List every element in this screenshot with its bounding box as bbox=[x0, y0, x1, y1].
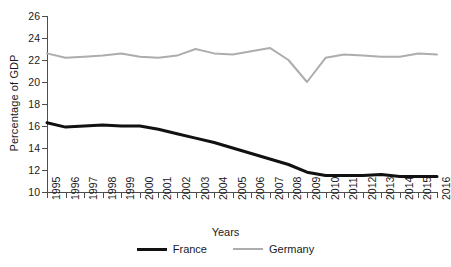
legend-label: Germany bbox=[269, 243, 314, 255]
legend-swatch-france bbox=[137, 248, 167, 251]
legend-label: France bbox=[173, 243, 207, 255]
x-axis-title: Years bbox=[0, 226, 451, 238]
legend-swatch-germany bbox=[233, 248, 263, 250]
chart-legend: FranceGermany bbox=[0, 243, 451, 255]
legend-item-germany[interactable]: Germany bbox=[233, 243, 314, 255]
line-chart: Percentage of GDP 101214161820222426 199… bbox=[0, 0, 451, 267]
series-line-france bbox=[47, 123, 437, 177]
legend-item-france[interactable]: France bbox=[137, 243, 207, 255]
series-line-germany bbox=[47, 48, 437, 82]
